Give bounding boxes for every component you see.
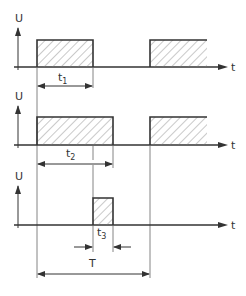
x-axis-label-row1: t bbox=[231, 61, 236, 74]
y-axis-label-row2: U bbox=[15, 90, 23, 103]
period-label: T bbox=[88, 257, 96, 270]
y-axis-label-row3: U bbox=[15, 170, 23, 183]
pulse-row2-b bbox=[150, 117, 207, 145]
x-axis-arrow-icon bbox=[218, 222, 228, 228]
y-axis-label-row1: U bbox=[15, 12, 23, 25]
pulse-timing-diagram: U t t1 U t t2 U t t3 bbox=[0, 0, 246, 296]
t1-label: t1 bbox=[58, 71, 67, 86]
row-3: U t t3 bbox=[14, 170, 236, 247]
x-axis-label-row2: t bbox=[231, 139, 236, 152]
y-axis-arrow-icon bbox=[15, 185, 21, 194]
period-dimension: T bbox=[38, 257, 149, 274]
y-axis-arrow-icon bbox=[15, 27, 21, 36]
pulse-row1-a bbox=[37, 40, 93, 67]
pulse-row1-b bbox=[150, 40, 207, 67]
t2-label: t2 bbox=[66, 147, 75, 162]
x-axis-label-row3: t bbox=[231, 219, 236, 232]
reference-lines bbox=[37, 68, 150, 278]
row-1: U t t1 bbox=[14, 12, 236, 86]
pulse-row2-a bbox=[37, 117, 113, 145]
t3-label: t3 bbox=[97, 226, 106, 241]
row-2: U t t2 bbox=[14, 90, 236, 164]
x-axis-arrow-icon bbox=[218, 142, 228, 148]
y-axis-arrow-icon bbox=[15, 105, 21, 114]
x-axis-arrow-icon bbox=[218, 64, 228, 70]
pulse-row3 bbox=[93, 198, 113, 225]
